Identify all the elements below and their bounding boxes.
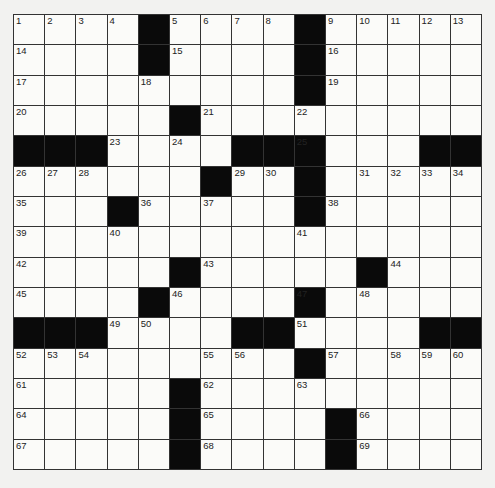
grid-cell[interactable] (201, 227, 231, 256)
grid-cell[interactable] (357, 106, 387, 135)
grid-cell[interactable] (232, 197, 262, 226)
grid-cell[interactable] (170, 318, 200, 347)
grid-cell[interactable]: 61 (14, 379, 44, 408)
grid-cell[interactable] (388, 76, 418, 105)
grid-cell[interactable]: 21 (201, 106, 231, 135)
grid-cell[interactable]: 39 (14, 227, 44, 256)
grid-cell[interactable] (170, 227, 200, 256)
grid-cell[interactable] (420, 227, 450, 256)
grid-cell[interactable] (232, 227, 262, 256)
grid-cell[interactable] (76, 409, 106, 438)
grid-cell[interactable] (451, 197, 481, 226)
grid-cell[interactable]: 53 (45, 349, 75, 378)
grid-cell[interactable] (420, 197, 450, 226)
grid-cell[interactable]: 19 (326, 76, 356, 105)
grid-cell[interactable] (108, 440, 138, 469)
grid-cell[interactable] (420, 106, 450, 135)
grid-cell[interactable] (451, 227, 481, 256)
grid-cell[interactable] (76, 288, 106, 317)
grid-cell[interactable] (232, 409, 262, 438)
grid-cell[interactable] (326, 258, 356, 287)
grid-cell[interactable]: 12 (420, 15, 450, 44)
grid-cell[interactable]: 63 (295, 379, 325, 408)
grid-cell[interactable] (232, 258, 262, 287)
grid-cell[interactable] (45, 409, 75, 438)
grid-cell[interactable]: 36 (139, 197, 169, 226)
grid-cell[interactable]: 7 (232, 15, 262, 44)
grid-cell[interactable] (388, 227, 418, 256)
grid-cell[interactable] (201, 136, 231, 165)
grid-cell[interactable] (388, 136, 418, 165)
grid-cell[interactable] (420, 288, 450, 317)
grid-cell[interactable]: 65 (201, 409, 231, 438)
grid-cell[interactable] (451, 45, 481, 74)
grid-cell[interactable]: 52 (14, 349, 44, 378)
grid-cell[interactable] (108, 258, 138, 287)
grid-cell[interactable] (357, 379, 387, 408)
grid-cell[interactable] (388, 440, 418, 469)
grid-cell[interactable] (388, 106, 418, 135)
grid-cell[interactable] (76, 258, 106, 287)
grid-cell[interactable] (264, 379, 294, 408)
grid-cell[interactable] (264, 45, 294, 74)
grid-cell[interactable] (45, 45, 75, 74)
grid-cell[interactable] (264, 440, 294, 469)
grid-cell[interactable] (139, 227, 169, 256)
grid-cell[interactable]: 57 (326, 349, 356, 378)
grid-cell[interactable] (45, 106, 75, 135)
grid-cell[interactable]: 33 (420, 167, 450, 196)
grid-cell[interactable] (201, 76, 231, 105)
grid-cell[interactable] (45, 379, 75, 408)
grid-cell[interactable] (420, 258, 450, 287)
grid-cell[interactable] (295, 440, 325, 469)
grid-cell[interactable] (357, 197, 387, 226)
grid-cell[interactable] (326, 106, 356, 135)
grid-cell[interactable]: 30 (264, 167, 294, 196)
grid-cell[interactable]: 40 (108, 227, 138, 256)
grid-cell[interactable]: 18 (139, 76, 169, 105)
grid-cell[interactable] (108, 167, 138, 196)
grid-cell[interactable]: 22 (295, 106, 325, 135)
grid-cell[interactable]: 20 (14, 106, 44, 135)
grid-cell[interactable] (326, 379, 356, 408)
grid-cell[interactable] (139, 136, 169, 165)
grid-cell[interactable] (170, 167, 200, 196)
grid-cell[interactable] (232, 76, 262, 105)
grid-cell[interactable] (45, 197, 75, 226)
grid-cell[interactable] (264, 227, 294, 256)
grid-cell[interactable] (76, 106, 106, 135)
grid-cell[interactable] (201, 318, 231, 347)
grid-cell[interactable]: 48 (357, 288, 387, 317)
grid-cell[interactable] (420, 379, 450, 408)
grid-cell[interactable] (388, 318, 418, 347)
grid-cell[interactable] (264, 258, 294, 287)
grid-cell[interactable]: 24 (170, 136, 200, 165)
grid-cell[interactable] (357, 318, 387, 347)
grid-cell[interactable]: 32 (388, 167, 418, 196)
grid-cell[interactable] (76, 197, 106, 226)
grid-cell[interactable]: 9 (326, 15, 356, 44)
grid-cell[interactable]: 31 (357, 167, 387, 196)
grid-cell[interactable]: 59 (420, 349, 450, 378)
grid-cell[interactable]: 11 (388, 15, 418, 44)
grid-cell[interactable] (451, 379, 481, 408)
grid-cell[interactable] (232, 379, 262, 408)
grid-cell[interactable]: 1 (14, 15, 44, 44)
grid-cell[interactable] (76, 76, 106, 105)
grid-cell[interactable] (76, 227, 106, 256)
grid-cell[interactable]: 6 (201, 15, 231, 44)
grid-cell[interactable] (357, 349, 387, 378)
grid-cell[interactable]: 13 (451, 15, 481, 44)
grid-cell[interactable] (388, 45, 418, 74)
grid-cell[interactable]: 50 (139, 318, 169, 347)
grid-cell[interactable]: 66 (357, 409, 387, 438)
grid-cell[interactable]: 67 (14, 440, 44, 469)
grid-cell[interactable] (264, 349, 294, 378)
grid-cell[interactable]: 2 (45, 15, 75, 44)
grid-cell[interactable] (295, 409, 325, 438)
grid-cell[interactable]: 62 (201, 379, 231, 408)
grid-cell[interactable]: 26 (14, 167, 44, 196)
grid-cell[interactable] (388, 379, 418, 408)
grid-cell[interactable] (264, 288, 294, 317)
grid-cell[interactable] (295, 258, 325, 287)
